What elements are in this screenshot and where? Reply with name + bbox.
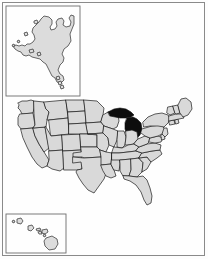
- state-AK[interactable]: [13, 15, 74, 83]
- state-HI-oahu[interactable]: [28, 225, 34, 231]
- hawaii-inset-box: [6, 214, 66, 253]
- state-IN[interactable]: [117, 131, 126, 148]
- state-NE[interactable]: [69, 123, 88, 134]
- state-MT[interactable]: [44, 100, 68, 120]
- alaska-island: [12, 44, 15, 47]
- state-CO[interactable]: [62, 134, 81, 151]
- alaska-island: [58, 81, 62, 85]
- us-map-figure: Michigan: [0, 0, 208, 259]
- state-HI-lanai[interactable]: [38, 231, 42, 234]
- state-ND[interactable]: [66, 100, 85, 112]
- state-AR[interactable]: [100, 150, 112, 165]
- contiguous-states: [18, 98, 192, 205]
- hawaii-inset: [6, 214, 66, 253]
- state-HI-kahoolawe[interactable]: [43, 234, 46, 237]
- state-FL[interactable]: [123, 176, 152, 205]
- state-NY[interactable]: [143, 113, 171, 127]
- state-HI-hawaii[interactable]: [44, 236, 58, 250]
- state-MN[interactable]: [84, 100, 104, 123]
- alaska-island: [37, 52, 41, 56]
- state-HI-niihau[interactable]: [12, 220, 15, 223]
- state-HI-maui[interactable]: [42, 229, 48, 234]
- state-IA[interactable]: [86, 122, 104, 134]
- alaska-island: [29, 49, 34, 53]
- state-WY[interactable]: [49, 118, 69, 136]
- state-HI-kauai[interactable]: [17, 218, 23, 224]
- alaska-island: [24, 32, 28, 36]
- state-KS[interactable]: [80, 134, 97, 147]
- state-MI-upper-peninsula[interactable]: [108, 108, 134, 118]
- state-OR[interactable]: [18, 113, 35, 129]
- state-AL[interactable]: [120, 159, 131, 176]
- state-SD[interactable]: [68, 111, 86, 124]
- state-AZ[interactable]: [47, 150, 64, 171]
- state-HI-molokai[interactable]: [36, 228, 41, 231]
- alaska-island: [56, 76, 60, 80]
- alaska-island: [17, 40, 20, 43]
- us-map-svg: [0, 0, 208, 259]
- alaska-island: [60, 85, 64, 89]
- alaska-inset: [6, 6, 80, 96]
- state-WA[interactable]: [18, 100, 34, 114]
